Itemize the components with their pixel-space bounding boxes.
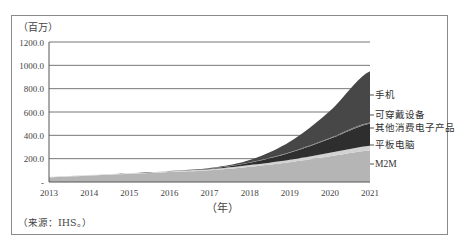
x-tick-label: 2013 [40,188,59,198]
x-tick-label: 2021 [361,188,379,198]
legend-label-可穿戴设备: 可穿戴设备 [375,109,425,120]
x-tick-label: 2016 [160,188,179,198]
y-tick-label: 800.0 [24,84,45,94]
x-tick-label: 2014 [80,188,99,198]
y-tick-label: 1000.0 [19,61,44,71]
x-tick-label: 2018 [241,188,260,198]
x-tick-label: 2015 [120,188,139,198]
legend-label-M2M: M2M [375,159,397,169]
y-tick-label: - [41,178,44,188]
y-tick-label: 1200.0 [19,38,44,48]
legend-label-手机: 手机 [375,89,395,100]
legend-label-其他消费电子产品: 其他消费电子产品 [375,122,455,133]
x-tick-label: 2017 [201,188,220,198]
legend-label-平板电脑: 平板电脑 [375,139,415,150]
y-tick-label: 600.0 [24,108,45,118]
x-tick-label: 2020 [321,188,340,198]
stacked-area-chart: -200.0400.0600.0800.01000.01200.02013201… [0,0,462,251]
y-tick-label: 200.0 [24,154,45,164]
y-tick-label: 400.0 [24,131,45,141]
x-tick-label: 2019 [281,188,300,198]
